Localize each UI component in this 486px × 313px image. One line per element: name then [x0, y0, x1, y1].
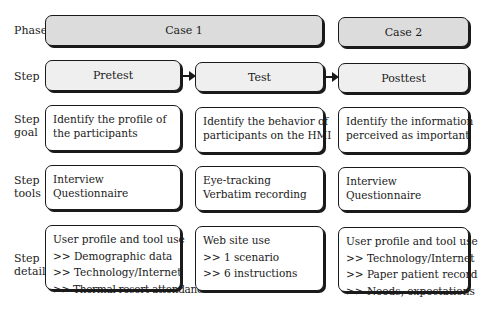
row-label-phase: Phase	[14, 24, 47, 37]
arrow-right-icon	[182, 71, 196, 81]
detail-test: Web site use >> 1 scenario >> 6 instruct…	[195, 226, 324, 291]
row-label-step: Step	[14, 70, 40, 83]
tools-pretest: Interview Questionnaire	[45, 165, 181, 210]
tools-test: Eye-tracking Verbatim recording	[195, 166, 324, 211]
step-test: Test	[195, 62, 324, 92]
phase-case-1: Case 1	[45, 15, 323, 46]
detail-posttest: User profile and tool use >> Technology/…	[338, 227, 469, 292]
goal-pretest: Identify the profile of the participants	[45, 105, 181, 151]
row-label-step-goal: Step goal	[14, 113, 40, 139]
goal-test: Identify the behavior of participants on…	[195, 107, 324, 153]
step-pretest: Pretest	[45, 60, 181, 91]
row-label-step-detail: Step detail	[14, 252, 46, 278]
goal-posttest: Identify the information perceived as im…	[338, 107, 469, 153]
detail-pretest: User profile and tool use >> Demographic…	[45, 225, 181, 290]
row-label-step-tools: Step tools	[14, 174, 41, 200]
tools-posttest: Interview Questionnaire	[338, 167, 469, 211]
step-posttest: Posttest	[338, 63, 469, 93]
arrow-right-icon	[325, 72, 339, 82]
phase-case-2: Case 2	[338, 17, 469, 47]
